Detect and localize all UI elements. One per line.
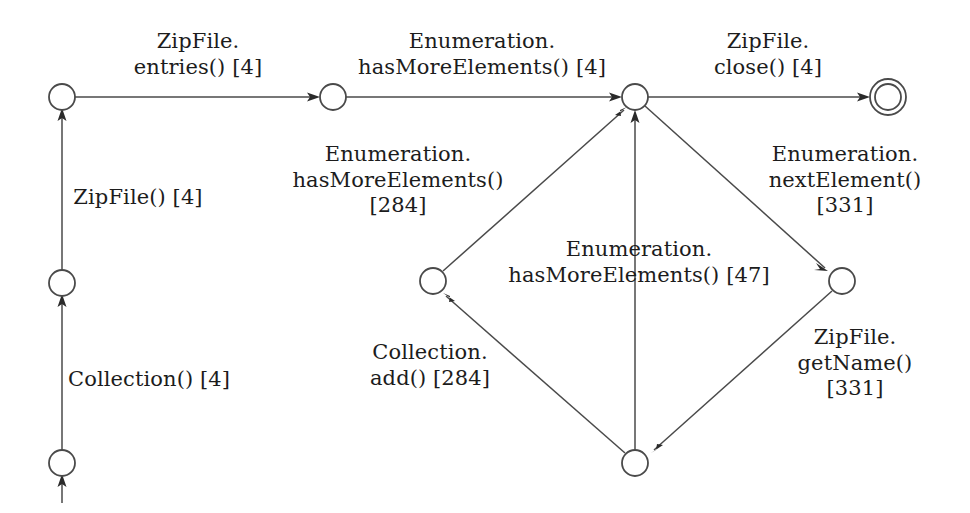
state-final-inner-ring [875,84,901,110]
state-entries[interactable] [320,84,346,110]
label-zipfile-entries: ZipFile. entries() [4] [98,29,298,80]
diagram-canvas: ZipFile. entries() [4] Enumeration. hasM… [0,0,970,513]
state-collection[interactable] [49,270,75,296]
label-hasmoreelements-4: Enumeration. hasMoreElements() [4] [332,29,632,80]
label-hasmoreelements-284: Enumeration. hasMoreElements() [284] [278,142,518,219]
label-enumeration-nextelement: Enumeration. nextElement() [331] [745,142,945,219]
label-zipfile-close: ZipFile. close() [4] [668,29,868,80]
label-collection-constructor: Collection() [4] [68,367,228,393]
state-hub[interactable] [622,84,648,110]
arrowhead-hasmoreelements-284 [615,107,627,116]
state-zipfile[interactable] [49,84,75,110]
label-zipfile-getname: ZipFile. getName() [331] [775,325,935,402]
arrowhead-collection-add [443,293,455,302]
state-diamond-bottom[interactable] [622,450,648,476]
state-diamond-left[interactable] [420,268,446,294]
state-start-state[interactable] [49,450,75,476]
arrowhead-getname [651,444,663,453]
label-collection-add: Collection. add() [284] [340,340,520,391]
label-zipfile-constructor: ZipFile() [4] [68,185,208,211]
label-hasmoreelements-47: Enumeration. hasMoreElements() [47] [489,237,789,288]
state-diamond-right[interactable] [829,268,855,294]
